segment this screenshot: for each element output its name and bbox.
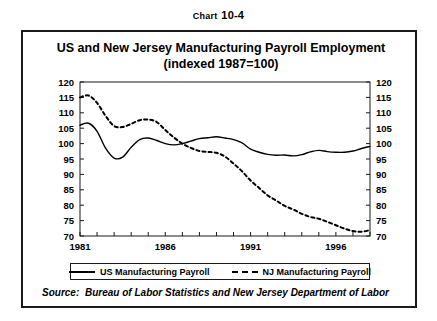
chart-legend: US Manufacturing Payroll NJ Manufacturin…: [70, 263, 370, 280]
svg-text:120: 120: [376, 77, 392, 88]
svg-text:95: 95: [63, 154, 74, 165]
svg-text:115: 115: [376, 92, 392, 103]
svg-text:105: 105: [58, 123, 75, 134]
legend-label-nj: NJ Manufacturing Payroll: [263, 267, 372, 277]
plot-area: 7070757580808585909095951001001051051101…: [23, 76, 419, 261]
chart-caption-number: 10-4: [221, 9, 244, 21]
source-label: Source:: [42, 287, 79, 298]
series-us: [80, 123, 370, 159]
svg-text:105: 105: [376, 123, 393, 134]
legend-label-us: US Manufacturing Payroll: [100, 267, 210, 277]
svg-text:100: 100: [58, 138, 74, 149]
svg-text:80: 80: [63, 200, 74, 211]
legend-item-nj: NJ Manufacturing Payroll: [232, 267, 372, 277]
svg-text:70: 70: [376, 231, 387, 242]
chart-number-caption: Chart10-4: [0, 9, 437, 21]
series-nj: [80, 95, 370, 231]
chart-title-line2: (indexed 1987=100): [23, 56, 419, 72]
legend-swatch-solid-icon: [69, 271, 95, 273]
svg-text:95: 95: [376, 154, 387, 165]
svg-text:90: 90: [376, 169, 387, 180]
svg-text:120: 120: [58, 77, 74, 88]
source-note: Source: Bureau of Labor Statistics and N…: [42, 287, 389, 298]
svg-text:100: 100: [376, 138, 392, 149]
svg-text:1991: 1991: [240, 241, 262, 252]
chart-title-block: US and New Jersey Manufacturing Payroll …: [23, 40, 419, 72]
svg-text:75: 75: [63, 215, 74, 226]
chart-title-line1: US and New Jersey Manufacturing Payroll …: [23, 40, 419, 56]
svg-text:80: 80: [376, 200, 387, 211]
svg-text:110: 110: [376, 107, 391, 118]
legend-item-us: US Manufacturing Payroll: [69, 267, 210, 277]
legend-swatch-dashed-icon: [232, 271, 258, 273]
chart-page: Chart10-4 US and New Jersey Manufacturin…: [0, 0, 437, 321]
source-text: Bureau of Labor Statistics and New Jerse…: [85, 287, 389, 298]
chart-caption-prefix: Chart: [193, 11, 218, 21]
svg-text:90: 90: [63, 169, 74, 180]
svg-text:110: 110: [59, 107, 74, 118]
svg-text:1986: 1986: [155, 241, 176, 252]
svg-text:70: 70: [63, 231, 74, 242]
svg-text:115: 115: [59, 92, 75, 103]
chart-frame: US and New Jersey Manufacturing Payroll …: [21, 30, 417, 308]
svg-text:85: 85: [376, 184, 387, 195]
line-chart-svg: 7070757580808585909095951001001051051101…: [23, 76, 419, 261]
svg-text:1981: 1981: [69, 241, 91, 252]
svg-text:75: 75: [376, 215, 387, 226]
svg-text:85: 85: [63, 184, 74, 195]
svg-text:1996: 1996: [325, 241, 346, 252]
